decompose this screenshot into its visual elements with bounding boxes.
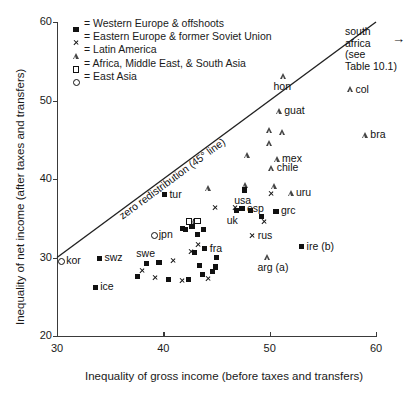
data-point-label: grc <box>281 204 296 216</box>
data-point-label: kor <box>66 254 81 266</box>
data-point-label: chile <box>277 161 299 173</box>
data-point-label: guat <box>284 104 304 116</box>
data-point-label: ice <box>100 280 113 292</box>
legend-label-3: = Africa, Middle East, & South Asia <box>84 57 246 70</box>
south-africa-arrow-icon: → <box>392 31 405 46</box>
data-point-label: uru <box>296 186 311 198</box>
south-africa-note-line-4: Table 10.1) <box>345 61 397 73</box>
data-point-label: jpn <box>159 228 173 240</box>
legend-item-3: = Africa, Middle East, & South Asia <box>70 57 272 70</box>
data-point-label: arg (a) <box>258 261 289 273</box>
data-point-label: tur <box>169 188 181 200</box>
south-africa-note-line-1: south <box>345 26 397 38</box>
data-point-label: rus <box>258 229 273 241</box>
data-point-label: hon <box>273 80 291 92</box>
data-point-label: uk <box>227 214 238 226</box>
legend-item-4: = East Asia <box>70 70 272 83</box>
data-point-label: ire (b) <box>307 240 334 252</box>
legend-item-0: = Western Europe & offshoots <box>70 17 272 30</box>
data-point-label: fra <box>210 242 222 254</box>
legend: = Western Europe & offshoots= Eastern Eu… <box>70 17 272 83</box>
legend-label-4: = East Asia <box>84 70 137 83</box>
legend-item-1: = Eastern Europe & former Soviet Union <box>70 30 272 43</box>
south-africa-note: south africa (see Table 10.1) <box>345 26 397 72</box>
data-point-label: bra <box>370 128 385 140</box>
legend-label-1: = Eastern Europe & former Soviet Union <box>84 30 272 43</box>
legend-item-2: = Latin America <box>70 43 272 56</box>
legend-label-0: = Western Europe & offshoots <box>84 17 224 30</box>
data-point-label: swe <box>136 247 155 259</box>
legend-label-2: = Latin America <box>84 43 157 56</box>
data-point-label: col <box>355 83 368 95</box>
scatter-chart: 2030405060 30405060 Inequality of net in… <box>0 0 419 395</box>
data-point-label: swz <box>105 251 123 263</box>
